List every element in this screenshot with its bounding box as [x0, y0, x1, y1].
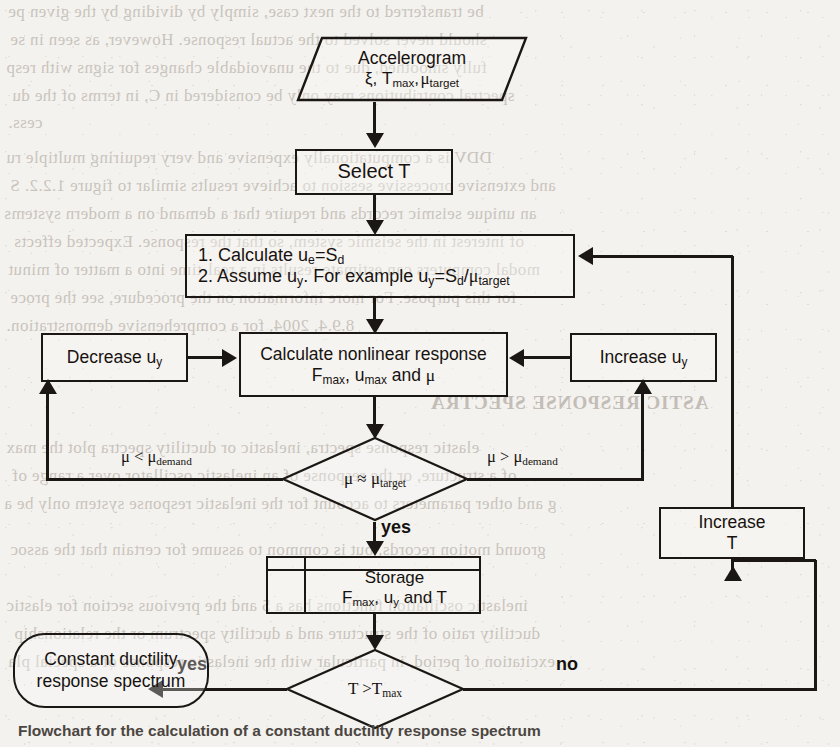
- node-initialize[interactable]: 1. Calculate ue=Sd 2. Assume uy. For exa…: [185, 234, 575, 298]
- edge-t-no-horizontal: [463, 688, 817, 691]
- arrowhead-left: [578, 247, 593, 265]
- edge-label-mu-yes: yes: [381, 517, 411, 538]
- select-t-label: Select T: [338, 160, 411, 184]
- edge-increase-to-nonlinear: [524, 356, 570, 359]
- increase-t-line-2: T: [727, 533, 738, 554]
- arrowhead-right: [222, 349, 237, 367]
- arrowhead-down: [366, 220, 384, 235]
- arrowhead-up: [39, 379, 57, 394]
- node-storage[interactable]: Storage Fmax, uy and T: [266, 556, 481, 614]
- edge-storage-to-t: [373, 614, 376, 637]
- nonlinear-line-2: Fmax, umax and μ: [312, 365, 435, 386]
- node-accelerogram-input[interactable]: Accelerogram ξ, Tmax, μtarget: [296, 36, 528, 102]
- arrowhead-down: [366, 541, 384, 556]
- node-increase-uy[interactable]: Increase uy: [570, 333, 717, 382]
- increase-t-line-1: Increase: [698, 512, 765, 533]
- increase-uy-label: Increase uy: [600, 347, 688, 368]
- edge-increase-t-to-init-vertical: [731, 256, 734, 508]
- terminal-line-1: Constant ductility: [44, 649, 177, 671]
- edge-nonlinear-to-mu: [373, 397, 376, 426]
- terminal-line-2: response spectrum: [37, 671, 186, 693]
- input-line-2: ξ, Tmax, μtarget: [365, 69, 459, 89]
- node-decrease-uy[interactable]: Decrease uy: [41, 333, 188, 382]
- node-constant-ductility-spectrum[interactable]: Constant ductility response spectrum: [13, 633, 209, 708]
- mu-decision-label: μ ≈ μtarget: [344, 469, 406, 489]
- t-decision-label: T >Tmax: [348, 679, 402, 699]
- edge-mu-greater-vertical: [641, 393, 644, 479]
- flowchart: Accelerogram ξ, Tmax, μtarget Select T 1…: [0, 0, 840, 747]
- edge-increase-t-to-init-horizontal: [592, 255, 733, 258]
- edge-init-to-nonlinear: [373, 298, 376, 321]
- edge-label-t-no: no: [556, 654, 578, 675]
- nonlinear-line-1: Calculate nonlinear response: [260, 344, 487, 365]
- arrowhead-down: [366, 133, 384, 148]
- edge-decrease-to-nonlinear: [188, 356, 224, 359]
- edge-label-mu-greater: μ > μdemand: [487, 447, 558, 467]
- node-calculate-nonlinear-response[interactable]: Calculate nonlinear response Fmax, umax …: [239, 332, 508, 397]
- initialize-line-1: 1. Calculate ue=Sd: [198, 245, 344, 266]
- figure-caption: Flowchart for the calculation of a const…: [18, 722, 818, 740]
- decrease-uy-label: Decrease uy: [67, 347, 162, 368]
- node-t-decision[interactable]: T >Tmax: [285, 648, 465, 730]
- scanned-page: be transferred to the next case, simply …: [0, 0, 840, 747]
- input-line-1: Accelerogram: [358, 48, 466, 69]
- arrowhead-up: [634, 379, 652, 394]
- arrowhead-left: [509, 349, 524, 367]
- edge-label-mu-less: μ < μdemand: [121, 447, 192, 467]
- edge-input-to-select: [373, 102, 376, 135]
- edge-t-no-vertical-right: [814, 560, 817, 689]
- edge-mu-greater-horizontal: [467, 478, 644, 481]
- edge-select-to-init: [373, 195, 376, 222]
- node-select-t[interactable]: Select T: [295, 149, 453, 195]
- arrowhead-up: [724, 566, 742, 581]
- node-increase-t[interactable]: Increase T: [659, 507, 805, 559]
- edge-mu-less-vertical: [46, 393, 49, 479]
- node-mu-decision[interactable]: μ ≈ μtarget: [281, 436, 469, 522]
- storage-divider-vertical: [304, 558, 306, 612]
- edge-mu-less-horizontal: [46, 478, 283, 481]
- storage-line-2: Fmax, uy and T: [342, 588, 447, 608]
- initialize-line-2: 2. Assume uy. For example uy=Sd/μtarget: [198, 266, 510, 287]
- storage-divider-horizontal: [268, 569, 479, 571]
